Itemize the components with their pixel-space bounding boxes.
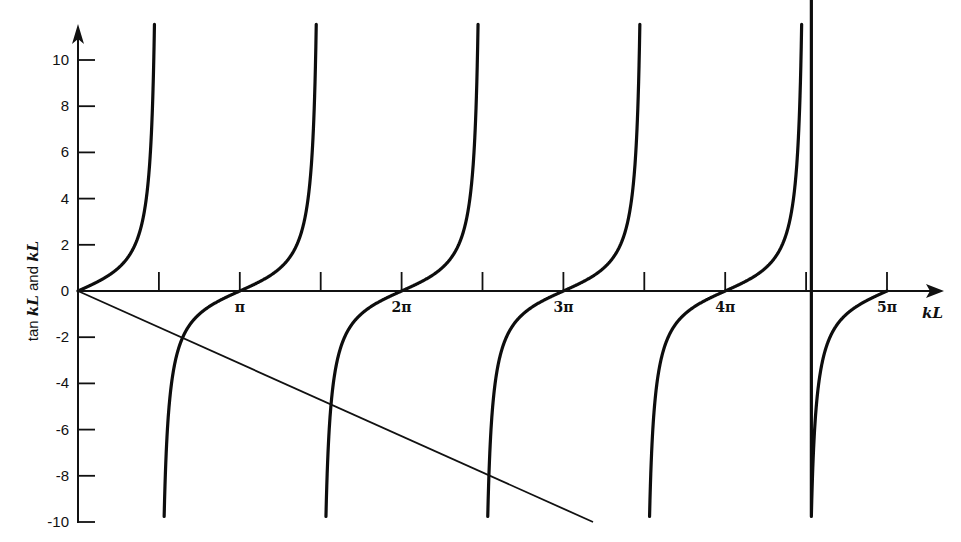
svg-text:tan kL and kL: tan kL and kL — [24, 241, 42, 341]
y-tick-label: -10 — [47, 513, 69, 530]
y-tick-label: 2 — [61, 236, 69, 253]
tan-curve-branch — [326, 24, 478, 516]
plot-series — [78, 0, 887, 542]
x-tick-label: 4π — [715, 299, 735, 315]
tan-curve-branch — [650, 24, 802, 516]
y-tick-label: 4 — [61, 190, 69, 207]
tan-curve-branch — [164, 24, 316, 516]
x-tick-label: 5π — [877, 299, 897, 315]
y-tick-label: -2 — [56, 328, 69, 345]
y-tick-label: -8 — [56, 467, 69, 484]
tan-curve-branch — [78, 24, 154, 291]
x-axis-title: kL — [922, 304, 943, 322]
x-tick-label: 2π — [392, 299, 412, 315]
chart: 1086420-2-4-6-8-10 π2π3π4π5π kL tan kL a… — [0, 0, 961, 542]
y-axis-title: tan kL and kL — [24, 241, 42, 341]
y-tick-label: 0 — [61, 282, 69, 299]
y-tick-label: -6 — [56, 421, 69, 438]
y-tick-label: 8 — [61, 97, 69, 114]
x-tick-label: 3π — [553, 299, 573, 315]
y-tick-label: 10 — [52, 51, 69, 68]
y-tick-label: -4 — [56, 374, 69, 391]
neg-kl-line — [78, 291, 593, 522]
tan-curve-branch — [806, 0, 887, 542]
x-tick-label: π — [235, 299, 245, 315]
y-tick-label: 6 — [61, 143, 69, 160]
tan-curve-branch — [488, 24, 640, 516]
